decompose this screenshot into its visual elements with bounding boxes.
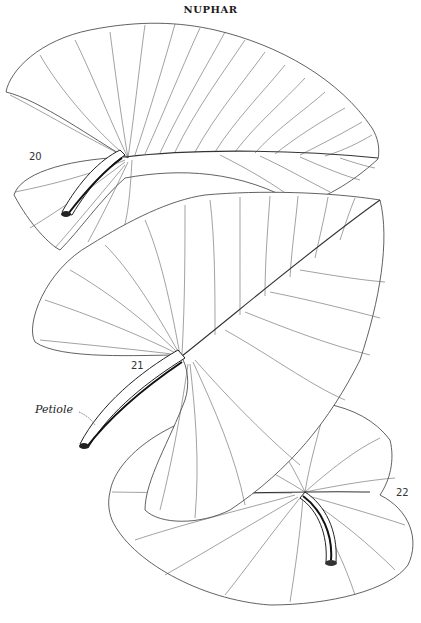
figure-22-label: 22 <box>396 487 409 498</box>
leaf-illustration <box>0 0 421 623</box>
figure-20-label: 20 <box>29 151 42 162</box>
petiole-callout: Petiole <box>35 403 73 416</box>
figure-21-label: 21 <box>131 360 144 371</box>
